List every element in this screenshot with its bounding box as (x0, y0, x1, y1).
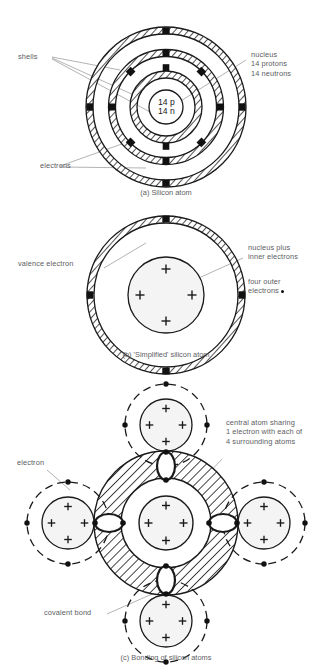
caption-panel-b: (b) 'Simplified' silicon atom (0, 350, 332, 359)
label-nucleus: nucleus 14 protons 14 neutrons (251, 50, 291, 78)
covalent-bond-right (206, 514, 240, 532)
label-valence-electron: valence electron (18, 259, 73, 268)
core-b (128, 257, 204, 333)
caption-panel-a: (a) Silicon atom (0, 188, 332, 197)
covalent-bond-top (157, 449, 175, 483)
label-nucleus-plus-inner-electrons: nucleus plus inner electrons (248, 243, 298, 262)
electron-dot-glyph (281, 290, 284, 293)
covalent-bond-bottom (157, 563, 175, 597)
label-shells: shells (18, 52, 38, 61)
silicon-structure-figure: 14 p 14 n (0, 0, 332, 669)
label-covalent-bond: covalent bond (44, 608, 91, 617)
caption-panel-c: (c) Bonding of silicon atoms (0, 653, 332, 662)
nucleus-a: 14 p 14 n (149, 90, 183, 124)
nucleus-neutrons-text: 14 n (158, 106, 175, 116)
panel-a-silicon-atom: 14 p 14 n (52, 27, 246, 187)
label-four-outer-electrons-text: four outer electrons (248, 277, 281, 295)
label-electron: electron (17, 458, 44, 467)
label-central-atom-sharing: central atom sharing 1 electron with eac… (226, 418, 302, 446)
covalent-bond-left (92, 514, 126, 532)
label-four-outer-electrons: four outer electrons (248, 277, 284, 296)
label-electrons: electrons (40, 161, 71, 170)
